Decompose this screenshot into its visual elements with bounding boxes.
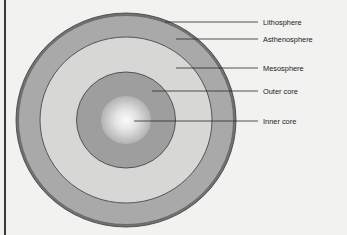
inner-core-label: Inner core (263, 117, 296, 126)
lithosphere-label: Lithosphere (263, 18, 302, 27)
asthenosphere-label: Asthenosphere (263, 35, 313, 44)
mesosphere-label: Mesosphere (263, 64, 304, 73)
earth-layers-diagram: Lithosphere Asthenosphere Mesosphere Out… (0, 0, 347, 235)
outer-core-label: Outer core (263, 87, 298, 96)
inner-core-layer (101, 96, 151, 144)
